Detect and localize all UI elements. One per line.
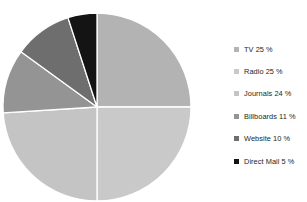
legend-item[interactable]: Billboards 11 % — [234, 105, 307, 127]
pie-chart-plot-area — [0, 0, 205, 202]
pie-chart-figure: TV 25 %Radio 25 %Journals 24 %Billboards… — [0, 0, 307, 202]
pie-chart-svg — [0, 0, 205, 202]
legend-item-label: Direct Mail 5 % — [244, 157, 294, 166]
chart-legend: TV 25 %Radio 25 %Journals 24 %Billboards… — [234, 38, 307, 172]
legend-swatch-icon — [234, 114, 239, 119]
legend-item[interactable]: TV 25 % — [234, 38, 307, 60]
legend-swatch-icon — [234, 159, 239, 164]
pie-slice — [97, 107, 191, 201]
pie-slice — [3, 107, 97, 201]
pie-slice — [97, 13, 191, 107]
legend-item-label: TV 25 % — [244, 45, 273, 54]
legend-item[interactable]: Direct Mail 5 % — [234, 150, 307, 172]
legend-item-label: Billboards 11 % — [244, 112, 296, 121]
legend-swatch-icon — [234, 91, 239, 96]
legend-item[interactable]: Website 10 % — [234, 128, 307, 150]
legend-item-label: Journals 24 % — [244, 89, 291, 98]
legend-swatch-icon — [234, 136, 239, 141]
legend-swatch-icon — [234, 69, 239, 74]
legend-item-label: Website 10 % — [244, 134, 290, 143]
legend-item-label: Radio 25 % — [244, 67, 283, 76]
legend-item[interactable]: Radio 25 % — [234, 60, 307, 82]
legend-item[interactable]: Journals 24 % — [234, 83, 307, 105]
legend-swatch-icon — [234, 47, 239, 52]
